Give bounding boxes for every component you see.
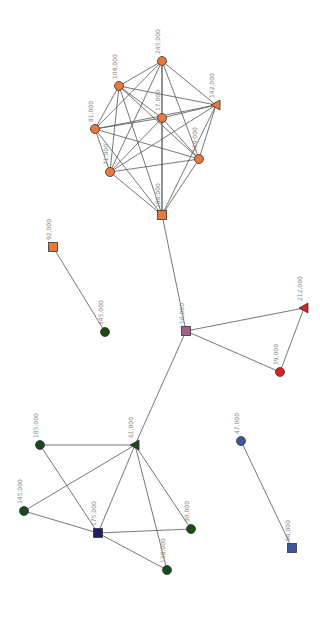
node-label: 61,000 (127, 417, 134, 438)
circle-node-icon[interactable] (163, 566, 172, 575)
node-label: 92,000 (45, 219, 52, 240)
node-label: 47,000 (233, 413, 240, 434)
node-label: 345,000 (97, 300, 104, 325)
node-label: 71,000 (102, 144, 109, 165)
node-label: 145,000 (16, 479, 23, 504)
node-label: 159,000 (191, 127, 198, 152)
node-label: 39,000 (272, 344, 279, 365)
node-label: 108,000 (111, 54, 118, 79)
edge (199, 105, 216, 159)
node-label: 17,000 (154, 90, 161, 111)
node-label: 245,000 (154, 29, 161, 54)
edge (110, 118, 162, 172)
edge (95, 129, 162, 215)
circle-node-icon[interactable] (187, 525, 196, 534)
node-label: 81,000 (87, 101, 94, 122)
node-label: 90,000 (183, 501, 190, 522)
square-node-icon[interactable] (288, 544, 297, 553)
edge (98, 533, 167, 570)
edge (24, 445, 135, 511)
edge (98, 445, 135, 533)
circle-node-icon[interactable] (106, 168, 115, 177)
triangle-node-icon[interactable] (211, 100, 220, 110)
circle-node-icon[interactable] (101, 328, 110, 337)
network-graph: 245,000108,000142,00017,00081,000159,000… (0, 0, 320, 617)
edge (186, 308, 304, 331)
edge (135, 331, 186, 445)
edge (95, 118, 162, 129)
circle-node-icon[interactable] (36, 441, 45, 450)
edges-layer (24, 61, 304, 570)
circle-node-icon[interactable] (115, 82, 124, 91)
edge (162, 159, 199, 215)
circle-node-icon[interactable] (195, 155, 204, 164)
square-node-icon[interactable] (94, 529, 103, 538)
square-node-icon[interactable] (182, 327, 191, 336)
node-label: 96,000 (284, 520, 291, 541)
edge (280, 308, 304, 372)
node-label: 56,000 (178, 303, 185, 324)
square-node-icon[interactable] (49, 243, 58, 252)
node-label: 186,000 (154, 183, 161, 208)
edge (119, 61, 162, 86)
circle-node-icon[interactable] (20, 507, 29, 516)
circle-node-icon[interactable] (158, 57, 167, 66)
edge (98, 529, 191, 533)
edge (162, 105, 216, 215)
circle-node-icon[interactable] (158, 114, 167, 123)
node-label: 175,000 (90, 501, 97, 526)
edge (24, 511, 98, 533)
node-label: 185,000 (32, 413, 39, 438)
circle-node-icon[interactable] (276, 368, 285, 377)
edge (186, 331, 280, 372)
edge (119, 86, 216, 105)
labels-layer: 245,000108,000142,00017,00081,000159,000… (16, 29, 303, 563)
node-label: 138,000 (159, 538, 166, 563)
triangle-node-icon[interactable] (299, 303, 308, 313)
node-label: 212,000 (296, 276, 303, 301)
triangle-node-icon[interactable] (130, 440, 139, 450)
square-node-icon[interactable] (158, 211, 167, 220)
circle-node-icon[interactable] (91, 125, 100, 134)
node-label: 142,000 (208, 73, 215, 98)
circle-node-icon[interactable] (237, 437, 246, 446)
